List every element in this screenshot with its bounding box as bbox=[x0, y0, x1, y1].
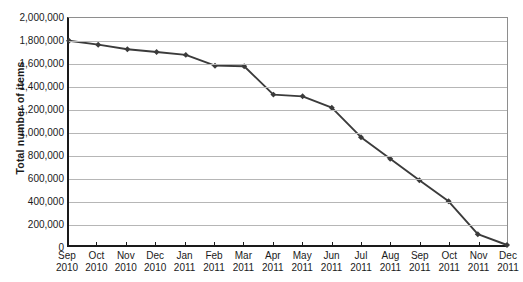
x-axis-tickmark bbox=[479, 242, 480, 247]
x-axis-tickmark bbox=[243, 242, 244, 247]
x-tick-year: 2011 bbox=[488, 262, 523, 274]
data-point-marker bbox=[154, 49, 160, 55]
gridline bbox=[69, 156, 507, 157]
series-polyline bbox=[69, 41, 507, 245]
data-point-marker bbox=[95, 42, 101, 48]
gridline bbox=[69, 133, 507, 134]
data-point-marker bbox=[504, 242, 510, 248]
x-axis-tickmark bbox=[361, 242, 362, 247]
x-axis-tick-label: Dec2011 bbox=[488, 250, 523, 274]
y-axis-tick-label: 1,800,000 bbox=[2, 35, 64, 46]
x-axis-tick-labels: Sep2010Oct2010Nov2010Dec2010Jan2011Feb20… bbox=[0, 250, 517, 282]
y-axis-tick-label: 2,000,000 bbox=[2, 12, 64, 23]
data-point-marker bbox=[300, 93, 306, 99]
x-axis-tickmark bbox=[273, 242, 274, 247]
y-axis-tick-label: 400,000 bbox=[2, 196, 64, 207]
x-axis-tickmark bbox=[332, 242, 333, 247]
data-point-marker bbox=[124, 46, 130, 52]
y-axis-tick-label: 800,000 bbox=[2, 150, 64, 161]
x-axis-tickmark bbox=[96, 242, 97, 247]
y-axis-tick-label: 200,000 bbox=[2, 219, 64, 230]
series-line-total-items bbox=[69, 18, 507, 245]
x-axis-tickmark bbox=[390, 242, 391, 247]
x-axis-tickmark bbox=[155, 242, 156, 247]
x-axis-tickmark bbox=[185, 242, 186, 247]
x-axis-tickmark bbox=[214, 242, 215, 247]
gridline bbox=[69, 179, 507, 180]
y-axis-tick-label: 600,000 bbox=[2, 173, 64, 184]
gridline bbox=[69, 225, 507, 226]
y-axis-tick-label: 1,400,000 bbox=[2, 81, 64, 92]
x-tick-month: Dec bbox=[488, 250, 523, 262]
gridline bbox=[69, 64, 507, 65]
gridline bbox=[69, 110, 507, 111]
gridline bbox=[69, 87, 507, 88]
y-axis-tick-label: 1,600,000 bbox=[2, 58, 64, 69]
data-point-marker bbox=[183, 52, 189, 58]
x-axis-tickmark bbox=[126, 242, 127, 247]
x-axis-tickmark bbox=[449, 242, 450, 247]
x-axis-tickmark bbox=[420, 242, 421, 247]
gridline bbox=[69, 41, 507, 42]
y-axis-tick-label: 1,000,000 bbox=[2, 127, 64, 138]
plot-area bbox=[67, 17, 508, 247]
y-axis-tick-labels: 0200,000400,000600,000800,0001,000,0001,… bbox=[0, 0, 64, 282]
x-axis-tickmark bbox=[302, 242, 303, 247]
y-axis-tick-label: 1,200,000 bbox=[2, 104, 64, 115]
gridline bbox=[69, 202, 507, 203]
